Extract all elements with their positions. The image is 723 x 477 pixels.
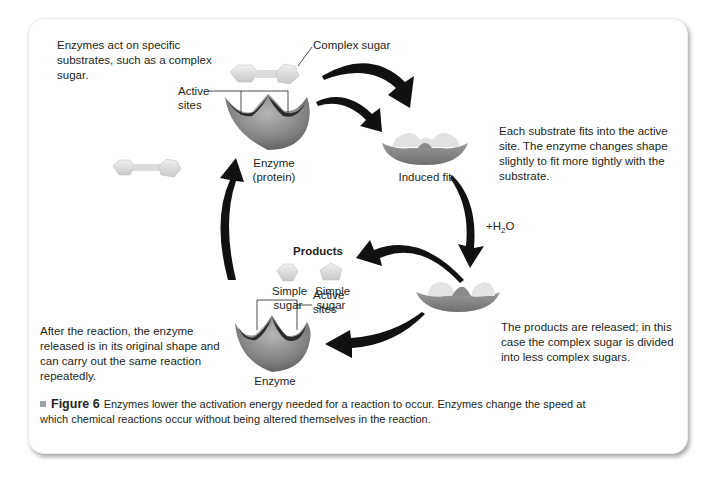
complex-sugar-leader-line (298, 47, 312, 66)
active-sites-bottom-line2: sites (313, 302, 344, 316)
complex-sugar-icon (230, 64, 299, 84)
release-annotation: The products are released; in this case … (501, 320, 676, 365)
figure-caption: Figure 6Enzymes lower the activation ene… (40, 397, 600, 427)
simple-sugar-hexagon-icon (277, 264, 298, 281)
enzyme-bottom-icon (235, 315, 311, 372)
reuse-annotation: After the reaction, the enzyme released … (40, 324, 220, 384)
water-suffix: O (505, 220, 514, 232)
simple-sugar-1-label: Simple sugar (272, 284, 304, 312)
enzyme-protein-label: Enzyme (protein) (252, 156, 296, 184)
simple-sugar-pentagon-icon (320, 263, 342, 280)
complex-sugar-label: Complex sugar (313, 38, 390, 53)
active-sites-top-line1: Active (178, 84, 209, 98)
active-sites-bottom-line1: Active (313, 288, 344, 302)
induced-fit-annotation: Each substrate fits into the active site… (499, 124, 684, 184)
products-released-enzyme-icon (416, 282, 500, 312)
arrow-top-inner-icon (316, 97, 382, 132)
active-sites-top-label: Active sites (178, 84, 209, 112)
intro-annotation: Enzymes act on specific substrates, such… (57, 38, 237, 83)
arrow-recycle-up-icon (220, 158, 244, 280)
complex-sugar-floating-icon (113, 159, 181, 177)
simple-sugar-1-line1: Simple (272, 284, 304, 298)
water-prefix: +H (486, 220, 501, 232)
enzyme-protein-line1: Enzyme (252, 156, 296, 170)
arrow-to-enzyme-bottom-icon (325, 312, 425, 358)
caption-bullet-icon (40, 401, 46, 407)
enzyme-protein-line2: (protein) (252, 170, 296, 184)
caption-text: Enzymes lower the activation energy need… (40, 398, 585, 425)
arrow-induced-to-released-icon (450, 175, 484, 268)
arrow-to-products-icon (356, 240, 464, 283)
figure-number: Figure 6 (51, 397, 100, 411)
induced-fit-enzyme-icon (382, 133, 468, 165)
simple-sugar-1-line2: sugar (272, 298, 304, 312)
induced-fit-label: Induced fit (395, 170, 455, 184)
products-label: Products (288, 244, 348, 258)
water-label: +H2O (486, 219, 514, 238)
enzyme-bottom-label: Enzyme (250, 374, 300, 388)
active-sites-top-line2: sites (178, 98, 209, 112)
enzyme-top-icon (225, 94, 310, 150)
active-sites-bottom-label: Active sites (313, 288, 344, 316)
